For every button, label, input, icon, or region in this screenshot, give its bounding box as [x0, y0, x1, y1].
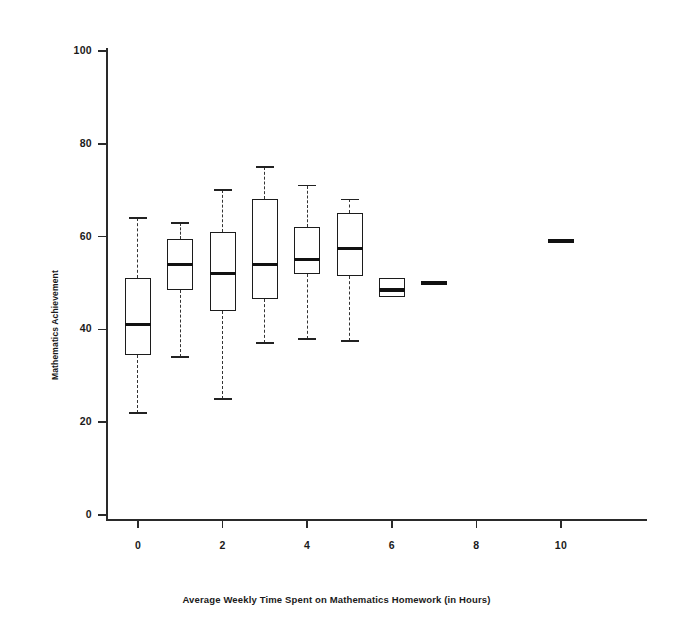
x-tick-label: 0 — [118, 539, 158, 551]
upper-whisker — [222, 190, 223, 232]
upper-whisker-cap — [214, 189, 232, 191]
upper-whisker — [349, 199, 350, 213]
lower-whisker — [222, 311, 223, 399]
median-line — [167, 263, 193, 266]
lower-whisker-cap — [298, 338, 316, 340]
x-axis-title: Average Weekly Time Spent on Mathematics… — [0, 594, 673, 605]
upper-whisker-cap — [256, 166, 274, 168]
x-tick-mark — [476, 519, 478, 528]
y-tick-mark — [98, 514, 106, 516]
lower-whisker-cap — [214, 398, 232, 400]
y-tick-label: 60 — [48, 230, 92, 242]
x-tick-label: 8 — [456, 539, 496, 551]
median-line — [252, 263, 278, 266]
upper-whisker-cap — [298, 185, 316, 187]
y-tick-mark — [98, 143, 106, 145]
x-axis-line — [106, 519, 647, 521]
upper-whisker — [180, 223, 181, 239]
y-axis-title: Mathematics Achievement — [50, 270, 60, 380]
y-tick-label: 0 — [48, 508, 92, 520]
lower-whisker — [264, 299, 265, 343]
upper-whisker — [307, 186, 308, 228]
x-tick-mark — [391, 519, 393, 528]
median-line — [125, 323, 151, 326]
lower-whisker-cap — [256, 342, 274, 344]
lower-whisker — [180, 290, 181, 357]
median-line — [379, 288, 405, 291]
x-tick-mark — [222, 519, 224, 528]
x-tick-mark — [306, 519, 308, 528]
iqr-box — [252, 199, 278, 299]
lower-whisker-cap — [171, 356, 189, 358]
iqr-box — [294, 227, 320, 273]
y-tick-mark — [98, 50, 106, 52]
upper-whisker-cap — [341, 199, 359, 201]
x-tick-label: 4 — [287, 539, 327, 551]
x-tick-mark — [560, 519, 562, 528]
upper-whisker-cap — [171, 222, 189, 224]
x-tick-label: 6 — [372, 539, 412, 551]
lower-whisker — [307, 274, 308, 339]
x-tick-mark — [137, 519, 139, 528]
median-line — [294, 258, 320, 261]
boxplot-figure: 020406080100 0246810 Mathematics Achieve… — [0, 0, 673, 634]
upper-whisker — [264, 167, 265, 199]
single-value-marker — [421, 281, 447, 285]
iqr-box — [125, 278, 151, 355]
upper-whisker-cap — [129, 217, 147, 219]
lower-whisker — [137, 355, 138, 413]
y-tick-mark — [98, 236, 106, 238]
y-tick-label: 20 — [48, 415, 92, 427]
median-line — [210, 272, 236, 275]
iqr-box — [337, 213, 363, 276]
y-tick-mark — [98, 329, 106, 331]
y-tick-label: 80 — [48, 137, 92, 149]
y-axis-line — [106, 48, 108, 521]
x-tick-label: 10 — [541, 539, 581, 551]
lower-whisker — [349, 276, 350, 341]
single-value-marker — [548, 239, 574, 243]
upper-whisker — [137, 218, 138, 278]
median-line — [337, 247, 363, 250]
y-tick-label: 100 — [48, 44, 92, 56]
lower-whisker-cap — [129, 412, 147, 414]
y-tick-mark — [98, 421, 106, 423]
x-tick-label: 2 — [203, 539, 243, 551]
lower-whisker-cap — [341, 340, 359, 342]
